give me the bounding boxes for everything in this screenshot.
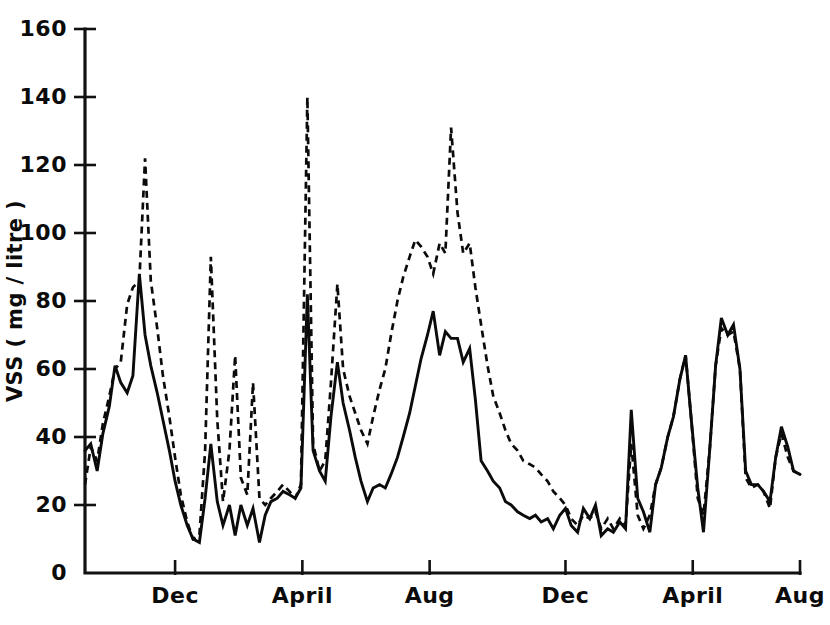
- chart-figure: 020406080100120140160 DecAprilAugDecApri…: [0, 0, 830, 625]
- series-line-solid: [85, 274, 800, 543]
- x-axis-tick-labels: DecAprilAugDecAprilAug: [151, 583, 825, 608]
- series-line-dashed: [85, 97, 800, 539]
- y-tick-label: 20: [35, 492, 67, 517]
- x-tick-label: Aug: [405, 583, 455, 608]
- y-tick-label: 80: [35, 288, 67, 313]
- y-tick-label: 120: [20, 152, 67, 177]
- y-axis-title: VSS ( mg / litre ): [3, 200, 27, 402]
- axis-lines: [85, 29, 800, 573]
- x-tick-label: Aug: [775, 583, 825, 608]
- y-tick-label: 160: [20, 16, 67, 41]
- x-tick-label: Dec: [151, 583, 199, 608]
- y-tick-label: 40: [35, 424, 67, 449]
- x-tick-label: April: [272, 583, 333, 608]
- y-tick-label: 0: [51, 560, 67, 585]
- y-tick-label: 140: [20, 84, 67, 109]
- x-tick-label: April: [662, 583, 723, 608]
- axes-group: [74, 29, 800, 575]
- data-series-group: [85, 97, 800, 542]
- chart-plot-area: 020406080100120140160 DecAprilAugDecApri…: [0, 0, 830, 625]
- x-tick-label: Dec: [542, 583, 590, 608]
- y-tick-label: 60: [35, 356, 67, 381]
